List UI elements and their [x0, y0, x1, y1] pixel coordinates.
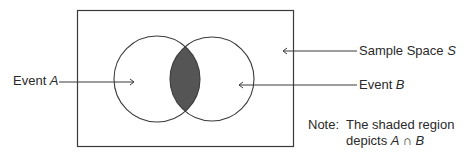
note-prefix: Note:: [308, 117, 339, 132]
sample-space-symbol: S: [447, 43, 456, 58]
event-a-arrow: [59, 79, 134, 85]
event-a-label: Event A: [13, 73, 59, 88]
event-b-label: Event B: [359, 77, 405, 92]
note-intersection-expression: A ∩ B: [391, 133, 424, 148]
event-a-symbol: A: [50, 73, 59, 88]
event-b-arrow: [239, 82, 357, 88]
event-b-symbol: B: [396, 77, 405, 92]
event-b-label-text: Event: [359, 77, 396, 92]
venn-diagram: Event A Sample Space S Event B Note: The…: [0, 0, 464, 159]
note-line-2: depicts A ∩ B: [346, 133, 424, 148]
sample-space-label: Sample Space S: [359, 43, 456, 58]
sample-space-label-text: Sample Space: [359, 43, 447, 58]
event-a-label-text: Event: [13, 73, 50, 88]
note-line-2-text: depicts: [346, 133, 391, 148]
note-line-1: The shaded region: [346, 117, 454, 132]
sample-space-arrow: [283, 48, 357, 54]
